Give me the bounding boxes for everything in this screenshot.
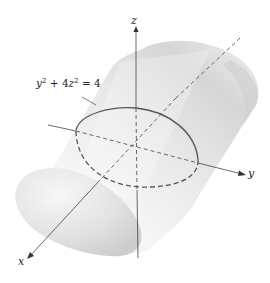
ellipse-equation-label: y2 + 4z2 = 4 <box>36 78 101 89</box>
x-axis-label: x <box>18 256 24 267</box>
eq-middle: + 4 <box>46 77 68 89</box>
eq-rhs: = 4 <box>79 77 101 89</box>
y-arrow-icon <box>238 171 246 177</box>
z-axis-label: z <box>131 15 137 26</box>
cylinder-surface <box>15 41 258 256</box>
y-axis-label: y <box>248 168 254 179</box>
elliptic-cylinder-figure: z y x y2 + 4z2 = 4 <box>0 0 270 283</box>
cylinder-diagram <box>0 0 270 283</box>
y-axis-left <box>48 125 76 131</box>
